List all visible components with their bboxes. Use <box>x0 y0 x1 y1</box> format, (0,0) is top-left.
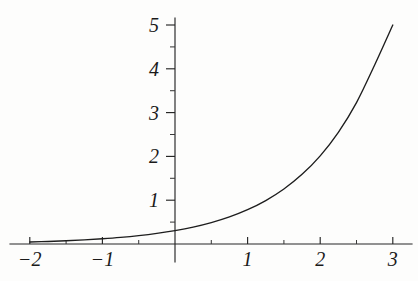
x-tick-label: 1 <box>243 248 253 270</box>
y-tick-label: 3 <box>148 102 159 124</box>
exponential-curve <box>30 25 393 242</box>
x-tick-label: 2 <box>315 248 325 270</box>
y-tick-label: 5 <box>149 14 159 36</box>
x-tick-label: −1 <box>91 248 115 270</box>
y-tick-label: 2 <box>149 145 159 167</box>
x-tick-label: −2 <box>18 248 42 270</box>
x-tick-label: 3 <box>387 248 398 270</box>
x-axis-tick-labels: −2−1123 <box>18 248 398 270</box>
y-tick-label: 4 <box>149 58 159 80</box>
chart-figure: −2−1123 12345 <box>0 0 418 281</box>
y-axis-tick-labels: 12345 <box>148 14 159 211</box>
plot-canvas: −2−1123 12345 <box>0 0 418 281</box>
y-axis-ticks <box>166 25 175 222</box>
y-tick-label: 1 <box>149 189 159 211</box>
